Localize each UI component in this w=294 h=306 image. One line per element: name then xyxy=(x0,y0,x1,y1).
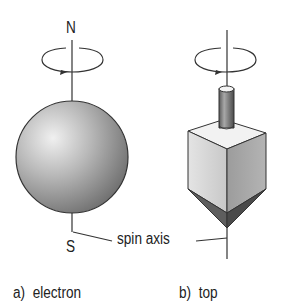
electron-figure xyxy=(16,40,128,241)
top-handle xyxy=(219,89,234,131)
spin-axis-leader-right xyxy=(196,238,227,241)
rotation-arrow-icon xyxy=(195,48,256,75)
electron-caption: a) electron xyxy=(13,284,81,302)
top-caption: b) top xyxy=(179,284,218,302)
top-figure xyxy=(188,30,266,259)
north-label: N xyxy=(66,19,76,37)
spin-axis-label: spin axis xyxy=(117,230,170,248)
electron-sphere xyxy=(16,101,128,213)
spin-axis-leader-left xyxy=(73,232,112,241)
south-label: S xyxy=(66,238,75,256)
spin-diagram xyxy=(0,0,294,306)
